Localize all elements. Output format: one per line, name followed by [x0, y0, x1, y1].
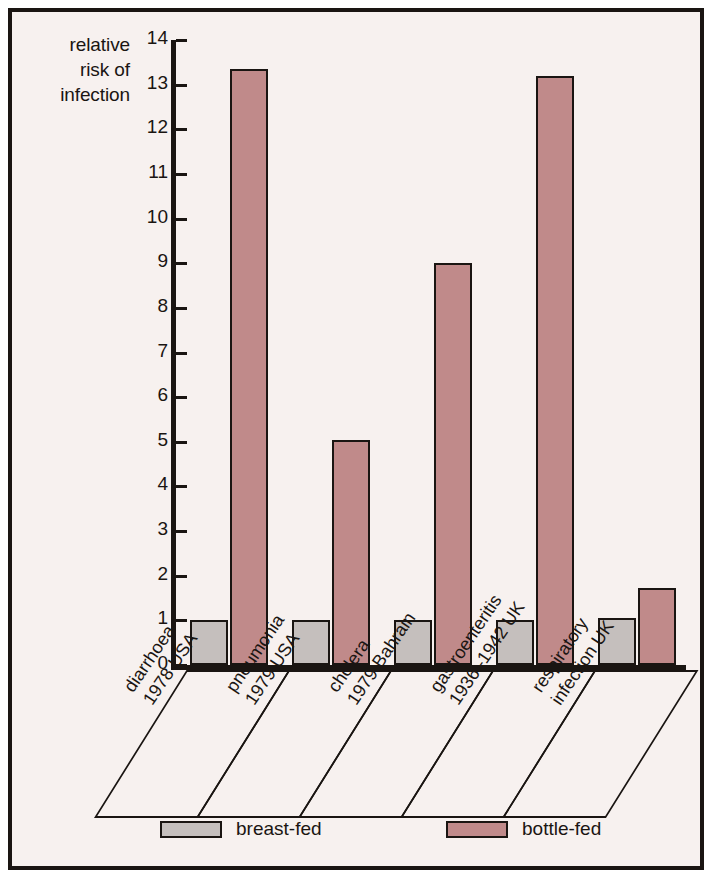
y-tick-label: 9 [120, 250, 168, 272]
chart-legend: breast-fedbottle-fed [12, 818, 708, 862]
y-tick-label: 5 [120, 429, 168, 451]
bar-breast-fed-4 [598, 618, 636, 665]
category-labels: diarrhoea1978 USApneumonia1979 USAcholer… [12, 670, 708, 830]
bar-breast-fed-3 [496, 620, 534, 665]
y-tick-label: 3 [120, 518, 168, 540]
bar-bottle-fed-0 [230, 69, 268, 665]
bar-bottle-fed-1 [332, 440, 370, 665]
chart-figure: relative risk of infection 0123456789101… [8, 8, 704, 870]
bar-breast-fed-1 [292, 620, 330, 665]
y-axis-title: relative risk of infection [34, 32, 130, 107]
y-tick-label: 7 [120, 340, 168, 362]
y-tick-label: 12 [120, 116, 168, 138]
bar-breast-fed-0 [190, 620, 228, 665]
y-tick-label: 6 [120, 384, 168, 406]
y-tick-label: 14 [120, 27, 168, 49]
bar-bottle-fed-2 [434, 263, 472, 665]
y-axis-title-line-2: risk of [34, 57, 130, 82]
y-tick-label: 1 [120, 607, 168, 629]
y-tick-label: 8 [120, 295, 168, 317]
legend-label: breast-fed [236, 818, 322, 840]
legend-label: bottle-fed [522, 818, 601, 840]
y-tick-label: 4 [120, 473, 168, 495]
y-tick-label: 13 [120, 72, 168, 94]
legend-swatch-bottle-fed [446, 821, 508, 838]
y-tick-label: 2 [120, 563, 168, 585]
bar-bottle-fed-3 [536, 76, 574, 665]
y-tick-label: 11 [120, 161, 168, 183]
y-axis-title-line-1: relative [34, 32, 130, 57]
legend-item-breast-fed[interactable]: breast-fed [160, 818, 322, 840]
legend-item-bottle-fed[interactable]: bottle-fed [446, 818, 601, 840]
bar-group-container [176, 40, 686, 665]
bar-bottle-fed-4 [638, 588, 676, 665]
y-tick-label: 10 [120, 206, 168, 228]
bar-breast-fed-2 [394, 620, 432, 665]
y-axis-title-line-3: infection [34, 82, 130, 107]
legend-swatch-breast-fed [160, 821, 222, 838]
